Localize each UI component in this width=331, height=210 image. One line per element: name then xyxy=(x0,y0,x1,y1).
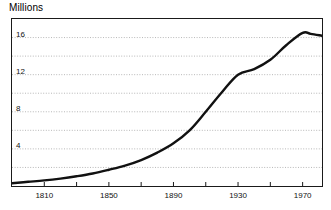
plot-svg xyxy=(12,19,322,186)
x-axis-tick-label: 1850 xyxy=(100,191,118,200)
x-axis-tick-label: 1810 xyxy=(35,191,53,200)
data-line xyxy=(12,32,322,183)
x-axis-ticks xyxy=(44,182,302,186)
y-axis-tick-label: 4 xyxy=(16,140,20,149)
plot-area xyxy=(11,18,323,187)
x-axis-tick-label: 1890 xyxy=(165,191,183,200)
x-axis-tick-label: 1970 xyxy=(294,191,312,200)
data-series-group xyxy=(12,32,322,183)
y-axis-tick-label: 8 xyxy=(16,103,20,112)
population-line-chart: Millions 481216 18101850189019301970 xyxy=(0,0,331,210)
y-axis-unit-label: Millions xyxy=(9,2,43,13)
x-axis-tick-label: 1930 xyxy=(229,191,247,200)
y-axis-tick-label: 12 xyxy=(16,66,25,75)
y-axis-tick-label: 16 xyxy=(16,29,25,38)
